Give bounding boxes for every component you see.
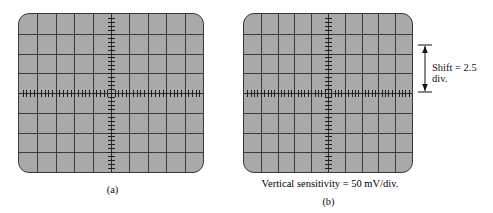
axis-tick-vertical [325, 97, 332, 98]
axis-tick-horizontal [74, 90, 75, 97]
axis-tick-horizontal [151, 90, 152, 97]
axis-tick-horizontal [78, 90, 79, 97]
axis-tick-horizontal [409, 90, 410, 97]
axis-tick-vertical [108, 61, 115, 62]
axis-tick-horizontal [129, 90, 130, 97]
axis-tick-horizontal [261, 90, 262, 97]
oscilloscope-screen-a [18, 13, 204, 173]
axis-tick-vertical [325, 125, 332, 126]
axis-tick-horizontal [375, 90, 376, 97]
axis-tick-horizontal [315, 90, 316, 97]
axis-tick-horizontal [181, 90, 182, 97]
axis-tick-horizontal [251, 90, 252, 97]
axis-tick-vertical [108, 50, 115, 51]
axis-tick-vertical [108, 54, 115, 55]
axis-tick-vertical [325, 77, 332, 78]
axis-tick-vertical [108, 129, 115, 130]
axis-tick-vertical [325, 156, 332, 157]
axis-tick-horizontal [348, 90, 349, 97]
axis-tick-horizontal [196, 90, 197, 97]
vertical-sensitivity-label: Vertical sensitivity = 50 mV/div. [240, 178, 420, 189]
axis-tick-horizontal [170, 90, 171, 97]
axis-tick-horizontal [34, 90, 35, 97]
axis-tick-horizontal [382, 90, 383, 97]
axis-tick-horizontal [331, 90, 332, 97]
axis-tick-horizontal [41, 90, 42, 97]
axis-tick-vertical [108, 57, 115, 58]
axis-tick-horizontal [122, 90, 123, 97]
axis-tick-vertical [325, 164, 332, 165]
graticule-grid-b [244, 14, 412, 172]
axis-tick-vertical [325, 69, 332, 70]
axis-tick-vertical [325, 46, 332, 47]
axis-tick-horizontal [278, 90, 279, 97]
axis-tick-horizontal [271, 90, 272, 97]
axis-tick-horizontal [174, 90, 175, 97]
axis-tick-horizontal [100, 90, 101, 97]
axis-tick-horizontal [338, 90, 339, 97]
axis-tick-horizontal [111, 90, 112, 97]
axis-tick-vertical [325, 109, 332, 110]
axis-tick-horizontal [368, 90, 369, 97]
axis-tick-vertical [108, 85, 115, 86]
axis-tick-vertical [108, 22, 115, 23]
axis-tick-vertical [325, 85, 332, 86]
axis-tick-vertical [325, 148, 332, 149]
axis-tick-horizontal [372, 90, 373, 97]
axis-tick-horizontal [140, 90, 141, 97]
axis-tick-vertical [108, 109, 115, 110]
axis-tick-horizontal [294, 90, 295, 97]
axis-tick-horizontal [325, 90, 326, 97]
axis-tick-horizontal [199, 90, 200, 97]
axis-tick-horizontal [30, 90, 31, 97]
axis-tick-vertical [108, 34, 115, 35]
axis-tick-vertical [325, 113, 332, 114]
axis-tick-horizontal [301, 90, 302, 97]
axis-tick-horizontal [395, 90, 396, 97]
axis-tick-horizontal [23, 90, 24, 97]
axis-tick-vertical [325, 34, 332, 35]
axis-tick-vertical [325, 140, 332, 141]
axis-tick-horizontal [352, 90, 353, 97]
axis-tick-horizontal [163, 90, 164, 97]
axis-tick-vertical [108, 136, 115, 137]
axis-tick-horizontal [144, 90, 145, 97]
axis-tick-horizontal [304, 90, 305, 97]
axis-tick-horizontal [63, 90, 64, 97]
axis-tick-vertical [325, 152, 332, 153]
axis-tick-vertical [325, 61, 332, 62]
axis-tick-horizontal [264, 90, 265, 97]
axis-tick-vertical [325, 136, 332, 137]
axis-tick-vertical [108, 77, 115, 78]
axis-tick-vertical [108, 69, 115, 70]
axis-tick-horizontal [362, 90, 363, 97]
axis-tick-vertical [325, 121, 332, 122]
axis-tick-horizontal [281, 90, 282, 97]
axis-tick-vertical [108, 97, 115, 98]
figure-oscilloscope-pair: (a) Shift = 2.5 div. Vertical sensitivit… [0, 0, 493, 213]
axis-tick-vertical [108, 144, 115, 145]
axis-tick-horizontal [399, 90, 400, 97]
axis-tick-horizontal [107, 90, 108, 97]
axis-tick-horizontal [37, 90, 38, 97]
axis-tick-horizontal [26, 90, 27, 97]
axis-tick-vertical [108, 46, 115, 47]
axis-tick-horizontal [155, 90, 156, 97]
axis-tick-horizontal [188, 90, 189, 97]
axis-tick-vertical [108, 30, 115, 31]
axis-tick-horizontal [288, 90, 289, 97]
axis-tick-vertical [108, 133, 115, 134]
axis-tick-horizontal [378, 90, 379, 97]
axis-tick-horizontal [133, 90, 134, 97]
axis-tick-vertical [325, 22, 332, 23]
axis-tick-vertical [108, 168, 115, 169]
axis-tick-horizontal [405, 90, 406, 97]
axis-tick-horizontal [254, 90, 255, 97]
axis-tick-vertical [108, 125, 115, 126]
axis-tick-horizontal [308, 90, 309, 97]
axis-tick-horizontal [93, 90, 94, 97]
axis-tick-vertical [325, 54, 332, 55]
axis-tick-vertical [108, 18, 115, 19]
axis-tick-vertical [325, 50, 332, 51]
axis-tick-vertical [108, 26, 115, 27]
